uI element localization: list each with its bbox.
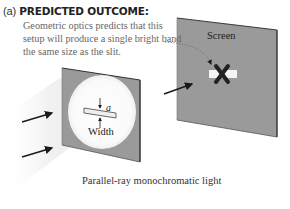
prediction-text: Geometric optics predicts that this setu… xyxy=(23,19,183,58)
screen-label: Screen xyxy=(207,30,236,41)
heading-title: PREDICTED OUTCOME: xyxy=(19,5,148,17)
diagram-stage: (a) PREDICTED OUTCOME: Geometric optics … xyxy=(0,0,290,209)
outcome-heading: (a) PREDICTED OUTCOME: xyxy=(3,5,149,17)
width-symbol: a xyxy=(106,102,111,113)
width-label: Width xyxy=(88,126,114,137)
panel-label: (a) xyxy=(3,5,16,17)
slit-panel xyxy=(62,68,140,162)
light-caption: Parallel-ray monochromatic light xyxy=(82,174,242,188)
